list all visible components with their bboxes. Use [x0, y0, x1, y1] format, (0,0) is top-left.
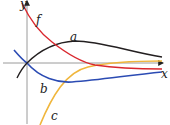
curve-f: [22, 3, 162, 69]
label-f: f: [35, 13, 43, 27]
function-graph: y x f a b c: [0, 0, 170, 125]
curve-c: [40, 61, 162, 125]
y-axis-label: y: [19, 0, 27, 11]
label-b: b: [40, 82, 48, 96]
label-c: c: [51, 109, 58, 123]
label-a: a: [70, 30, 77, 44]
x-axis-label: x: [161, 67, 168, 81]
